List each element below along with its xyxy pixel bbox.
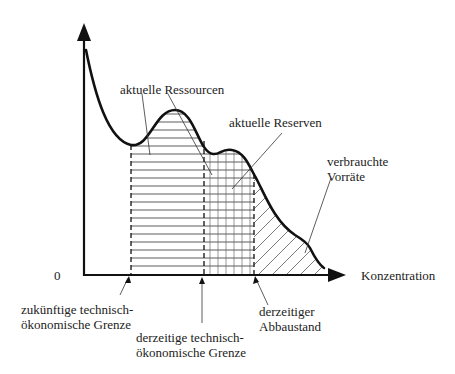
resource-diagram: 0 Konzentration aktuelle Ressourcen aktu… — [0, 0, 455, 374]
leader-consumed — [305, 178, 331, 253]
y-axis-arrow-icon — [77, 23, 91, 41]
consumed-label-line1: verbrauchte — [327, 154, 389, 169]
current-extraction-label-line1: derzeitiger — [259, 304, 315, 319]
origin-label: 0 — [54, 268, 61, 283]
future-limit-label-line1: zukünftige technisch- — [21, 302, 133, 317]
current-extraction-label-line2: Abbaustand — [259, 319, 322, 334]
leader-resources-2 — [168, 94, 212, 175]
current-limit-label-line2: ökonomische Grenze — [136, 345, 246, 360]
consumed-label-line2: Vorräte — [327, 169, 365, 184]
leader-current-extraction — [256, 279, 268, 305]
reserves-vertical-hatch — [210, 140, 250, 275]
current-limit-pointer-icon — [199, 277, 205, 284]
future-limit-label-line2: ökonomische Grenze — [21, 317, 131, 332]
x-axis-label: Konzentration — [361, 268, 436, 283]
resources-label: aktuelle Ressourcen — [120, 82, 225, 97]
x-axis-arrow-icon — [328, 268, 346, 282]
resources-horizontal-hatch — [131, 114, 254, 266]
future-limit-pointer-icon — [125, 276, 131, 283]
current-limit-label-line1: derzeitige technisch- — [136, 330, 244, 345]
reserves-label: aktuelle Reserven — [229, 115, 322, 130]
